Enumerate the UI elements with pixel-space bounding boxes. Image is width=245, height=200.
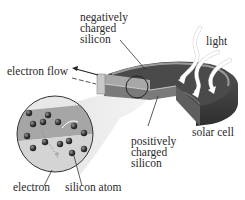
label-solar-cell: solar cell: [192, 127, 234, 138]
terminal: [97, 74, 105, 94]
label-line: silicon: [80, 34, 128, 45]
arrow-head-icon: [72, 66, 78, 71]
label-positively-charged-silicon: positively charged silicon: [131, 136, 176, 169]
electron-dot: [55, 152, 59, 156]
label-line: silicon: [131, 158, 176, 169]
pointer-positive: [148, 96, 158, 126]
label-silicon-atom: silicon atom: [65, 182, 122, 193]
label-electron-flow: electron flow: [7, 66, 68, 77]
electron-flow-arrow: [76, 69, 98, 75]
label-negatively-charged-silicon: negatively charged silicon: [80, 12, 128, 45]
label-electron: electron: [13, 182, 50, 193]
label-light: light: [206, 36, 227, 47]
